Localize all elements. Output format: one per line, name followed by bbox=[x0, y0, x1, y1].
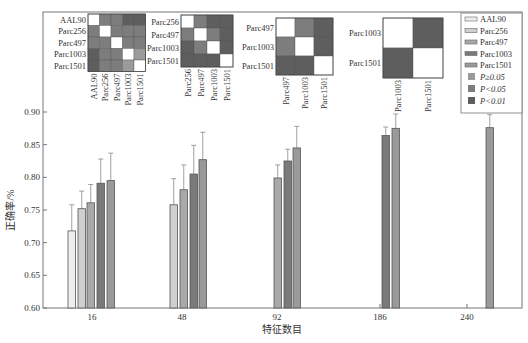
matrix-cell bbox=[134, 49, 146, 61]
legend-swatch bbox=[465, 29, 477, 33]
legend-label: Parc256 bbox=[480, 26, 508, 36]
matrix-cell bbox=[88, 49, 100, 61]
y-tick-label: 0.80 bbox=[24, 172, 40, 182]
matrix-cell bbox=[100, 26, 112, 38]
matrix-cell bbox=[383, 18, 413, 48]
matrix-cell bbox=[276, 18, 295, 37]
matrix-cell bbox=[134, 37, 146, 49]
legend-label: P<0.05 bbox=[479, 84, 506, 94]
legend-swatch bbox=[465, 52, 477, 56]
matrix-row-label: Parc1003 bbox=[242, 42, 274, 52]
matrix-col-label: Parc1501 bbox=[222, 69, 232, 101]
matrix-cell bbox=[314, 37, 333, 56]
matrix-col-label: Parc1003 bbox=[123, 74, 133, 106]
y-tick-label: 0.75 bbox=[24, 205, 40, 215]
x-tick-label: 240 bbox=[460, 312, 474, 322]
bar-parc1501-92 bbox=[293, 148, 301, 308]
legend-label: Parc497 bbox=[480, 37, 508, 47]
legend-label: Parc1003 bbox=[480, 49, 512, 59]
matrix-cell bbox=[123, 37, 135, 49]
matrix-row-label: Parc1501 bbox=[54, 61, 86, 71]
matrix-cell bbox=[100, 60, 112, 72]
matrix-cell bbox=[100, 14, 112, 26]
matrix-cell bbox=[111, 14, 123, 26]
x-tick-label: 48 bbox=[178, 312, 188, 322]
bar-parc1003-48 bbox=[190, 174, 198, 308]
bar-parc1003-92 bbox=[284, 161, 292, 308]
matrix-cell bbox=[123, 26, 135, 38]
matrix-row-label: Parc1501 bbox=[349, 58, 381, 68]
matrix-cell bbox=[207, 41, 220, 54]
x-tick-label: 92 bbox=[273, 312, 282, 322]
y-tick-label: 0.65 bbox=[24, 270, 40, 280]
bar-parc1003-186 bbox=[382, 136, 390, 308]
matrix-row-label: Parc497 bbox=[246, 23, 274, 33]
legend-swatch bbox=[468, 97, 475, 104]
matrix-cell bbox=[123, 14, 135, 26]
matrix-cell bbox=[194, 28, 207, 41]
matrix-cell bbox=[220, 15, 233, 28]
matrix-col-label: Parc1003 bbox=[300, 77, 310, 109]
matrix-cell bbox=[88, 37, 100, 49]
matrix-cell bbox=[220, 54, 233, 67]
bar-parc1003-16 bbox=[97, 183, 105, 308]
matrix-cell bbox=[383, 48, 413, 78]
legend-swatch bbox=[465, 17, 477, 21]
y-tick-label: 0.70 bbox=[24, 238, 40, 248]
matrix-row-label: Parc256 bbox=[151, 17, 179, 27]
matrix-cell bbox=[111, 60, 123, 72]
matrix-cell bbox=[276, 56, 295, 75]
matrix-col-label: Parc1501 bbox=[135, 74, 145, 106]
matrix-cell bbox=[194, 15, 207, 28]
legend-label: P<0.01 bbox=[479, 96, 506, 106]
y-tick-label: 0.90 bbox=[24, 107, 40, 117]
matrix-cell bbox=[181, 41, 194, 54]
matrix-col-label: Parc256 bbox=[100, 74, 110, 102]
matrix-cell bbox=[220, 28, 233, 41]
matrix-col-label: Parc1501 bbox=[423, 80, 433, 112]
matrix-cell bbox=[181, 15, 194, 28]
y-tick-label: 0.85 bbox=[24, 140, 40, 150]
matrix-cell bbox=[134, 60, 146, 72]
matrix-cell bbox=[88, 14, 100, 26]
matrix-cell bbox=[413, 48, 443, 78]
matrix-row-label: Parc1501 bbox=[242, 61, 274, 71]
matrix-row-label: AAL90 bbox=[60, 15, 86, 25]
matrix-cell bbox=[88, 26, 100, 38]
legend-swatch bbox=[465, 63, 477, 67]
matrix-cell bbox=[207, 15, 220, 28]
y-tick-label: 0.60 bbox=[24, 303, 40, 313]
bar-parc1501-48 bbox=[199, 160, 207, 308]
bar-aal90-16 bbox=[68, 231, 76, 308]
bar-parc1501-186 bbox=[392, 128, 400, 308]
bar-parc256-16 bbox=[78, 209, 86, 308]
matrix-cell bbox=[207, 28, 220, 41]
matrix-cell bbox=[194, 41, 207, 54]
matrix-cell bbox=[220, 41, 233, 54]
matrix-row-label: Parc256 bbox=[58, 26, 86, 36]
matrix-cell bbox=[123, 60, 135, 72]
matrix-row-label: Parc1501 bbox=[147, 56, 179, 66]
matrix-col-label: AAL90 bbox=[89, 74, 99, 100]
matrix-cell bbox=[295, 18, 314, 37]
legend-label: Parc1501 bbox=[480, 60, 512, 70]
matrix-col-label: Parc256 bbox=[183, 69, 193, 97]
matrix-cell bbox=[181, 54, 194, 67]
matrix-cell bbox=[111, 37, 123, 49]
matrix-col-label: Parc1003 bbox=[393, 80, 403, 112]
bar-parc497-48 bbox=[180, 190, 188, 308]
x-tick-label: 16 bbox=[88, 312, 98, 322]
matrix-row-label: Parc1003 bbox=[54, 49, 86, 59]
matrix-cell bbox=[100, 49, 112, 61]
bar-parc1501-16 bbox=[107, 181, 115, 308]
matrix-cell bbox=[276, 37, 295, 56]
legend-swatch bbox=[465, 40, 477, 44]
legend-swatch bbox=[468, 73, 475, 80]
matrix-col-label: Parc497 bbox=[281, 77, 291, 105]
matrix-col-label: Parc1003 bbox=[209, 69, 219, 101]
matrix-cell bbox=[134, 26, 146, 38]
matrix-cell bbox=[314, 56, 333, 75]
matrix-cell bbox=[207, 54, 220, 67]
matrix-cell bbox=[295, 37, 314, 56]
matrix-cell bbox=[123, 49, 135, 61]
